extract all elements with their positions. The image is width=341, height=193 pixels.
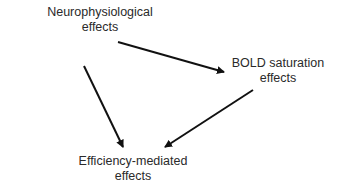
- arrow-neuro-to-efficiency: [84, 66, 123, 147]
- node-label-line: Neurophysiological: [40, 5, 160, 20]
- arrow-neuro-to-bold: [118, 42, 224, 72]
- node-neurophysiological-effects: Neurophysiological effects: [40, 5, 160, 35]
- node-bold-saturation-effects: BOLD saturation effects: [228, 56, 328, 86]
- node-label-line: effects: [228, 71, 328, 86]
- node-label-line: effects: [40, 20, 160, 35]
- node-label-line: BOLD saturation: [228, 56, 328, 71]
- node-efficiency-mediated-effects: Efficiency-mediated effects: [68, 154, 198, 184]
- node-label-line: Efficiency-mediated: [68, 154, 198, 169]
- node-label-line: effects: [68, 169, 198, 184]
- arrow-bold-to-efficiency: [165, 90, 253, 147]
